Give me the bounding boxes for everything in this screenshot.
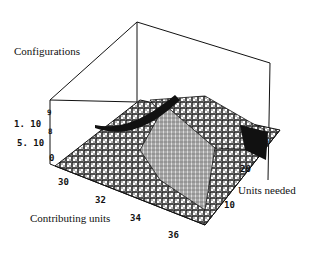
z-tick-2: 1. 109 xyxy=(14,116,46,129)
x-tick-34: 34 xyxy=(130,213,141,223)
x-tick-32: 32 xyxy=(95,195,106,205)
x-axis-label: Contributing units xyxy=(30,212,110,224)
y-axis-label: Units needed xyxy=(238,184,296,196)
y-tick-10: 10 xyxy=(224,200,235,210)
z-tick-0: 0 xyxy=(49,153,54,163)
z-tick-2-text: 1. 10 xyxy=(14,119,41,129)
surface-plot-figure: Configurations 1. 109 5. 108 0 30 32 34 … xyxy=(0,0,310,253)
z-axis-label: Configurations xyxy=(14,45,80,57)
z-tick-2-exp: 9 xyxy=(47,108,52,117)
y-tick-30: 30 xyxy=(258,137,269,147)
y-tick-20: 20 xyxy=(240,164,251,174)
x-tick-36: 36 xyxy=(168,230,179,240)
z-tick-1-exp: 8 xyxy=(48,127,53,136)
z-tick-1: 5. 108 xyxy=(17,135,49,148)
z-tick-1-text: 5. 10 xyxy=(17,138,44,148)
x-tick-30: 30 xyxy=(58,177,69,187)
